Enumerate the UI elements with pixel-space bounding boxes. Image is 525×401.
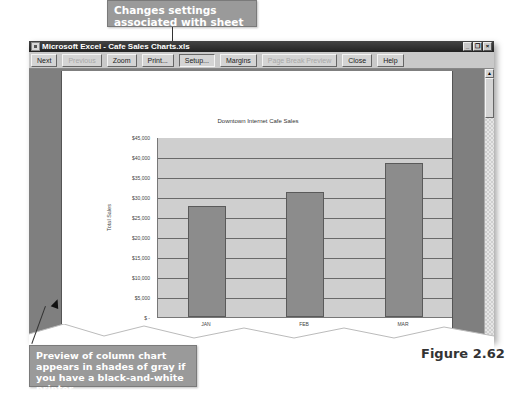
chart-callout: Preview of column chart appears in shade… [29,345,197,387]
close-icon[interactable]: × [483,42,492,51]
bar-jan [188,206,226,317]
vertical-scrollbar[interactable]: ▲ [484,69,494,341]
previous-button[interactable]: Previous [62,54,101,67]
figure-label: Figure 2.62 [421,346,505,361]
bar-mar [385,163,423,317]
y-tick: $25,000 [114,215,150,221]
scroll-up-arrow-icon[interactable]: ▲ [485,69,494,78]
y-tick: $15,000 [114,255,150,261]
restore-icon[interactable]: ❐ [473,42,482,51]
print-preview-toolbar: Next Previous Zoom Print... Setup... Mar… [29,52,494,69]
y-axis-label: Total Sales [106,204,112,231]
help-button[interactable]: Help [377,54,403,67]
setup-button[interactable]: Setup... [179,54,215,67]
y-tick: $20,000 [114,235,150,241]
y-tick: $45,000 [114,135,150,141]
chart-title: Downtown Internet Cafe Sales [62,118,454,124]
plot-area [157,138,452,318]
y-tick: $ - [114,315,150,321]
print-button[interactable]: Print... [142,54,174,67]
minimize-icon[interactable]: _ [463,42,472,51]
y-tick: $40,000 [114,155,150,161]
y-tick: $35,000 [114,175,150,181]
window-controls: _ ❐ × [463,42,492,51]
excel-app-icon [31,42,40,51]
setup-callout: Changes settings associated with sheet y… [107,0,257,27]
excel-print-preview-window: Microsoft Excel - Cafe Sales Charts.xls … [29,41,494,341]
preview-page[interactable]: Downtown Internet Cafe Sales Total Sales… [61,71,453,341]
y-tick: $10,000 [114,275,150,281]
next-button[interactable]: Next [31,54,57,67]
title-bar: Microsoft Excel - Cafe Sales Charts.xls … [29,41,494,52]
zoom-button[interactable]: Zoom [107,54,137,67]
y-tick: $5,000 [114,295,150,301]
gridline [158,158,452,159]
close-button[interactable]: Close [342,54,372,67]
y-tick: $30,000 [114,195,150,201]
page-break-preview-button[interactable]: Page Break Preview [262,54,337,67]
bar-feb [286,192,324,317]
margins-button[interactable]: Margins [220,54,257,67]
scroll-thumb[interactable] [485,78,494,118]
window-title: Microsoft Excel - Cafe Sales Charts.xls [42,42,190,51]
